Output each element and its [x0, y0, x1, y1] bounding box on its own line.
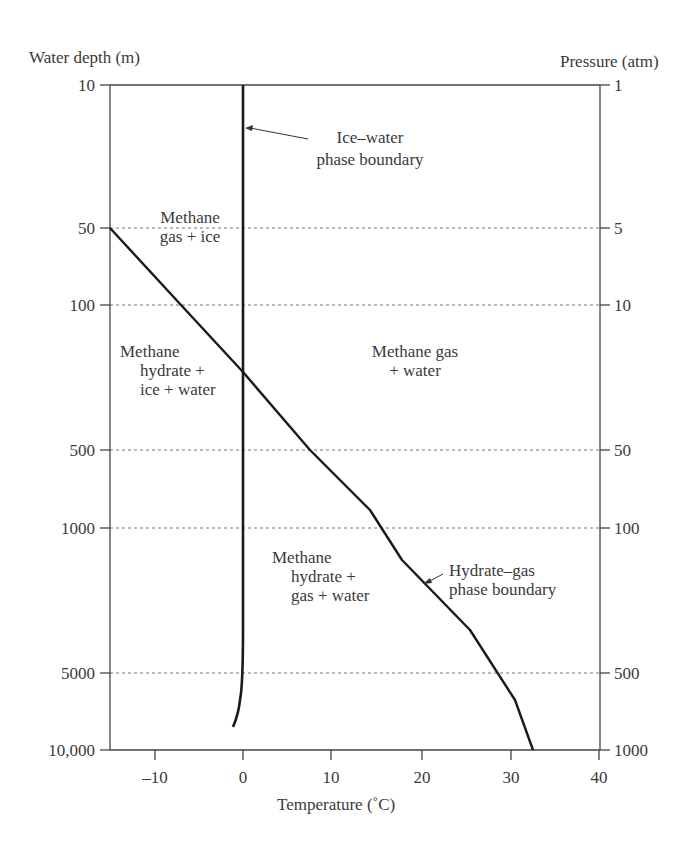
- gridlines: [110, 228, 600, 673]
- left-axis-ticks: [100, 85, 110, 750]
- left-tick-label: 500: [15, 441, 95, 460]
- right-tick-label: 50: [614, 441, 631, 460]
- right-tick-label: 10: [614, 296, 631, 315]
- hydrate-gas-boundary-label: Hydrate–gas phase boundary: [449, 561, 556, 599]
- hydrate-gas-annotation-arrow: [423, 574, 443, 584]
- right-tick-label: 5: [614, 219, 623, 238]
- ice-water-boundary-line: [233, 85, 243, 727]
- region-methane-gas-ice: Methane gas + ice: [145, 208, 235, 246]
- left-tick-label: 10,000: [15, 741, 95, 760]
- bottom-tick-label: –10: [125, 768, 185, 787]
- bottom-tick-label: 20: [392, 768, 452, 787]
- axes-frame: [110, 85, 600, 750]
- region-methane-hydrate-ice-water: Methane hydrate + ice + water: [120, 342, 216, 399]
- left-tick-label: 100: [15, 296, 95, 315]
- region-methane-gas-water: Methane gas + water: [355, 342, 475, 380]
- right-tick-label: 500: [614, 664, 640, 683]
- bottom-tick-label: 40: [569, 768, 629, 787]
- bottom-tick-label: 10: [301, 768, 361, 787]
- bottom-tick-label: 30: [481, 768, 541, 787]
- ice-water-boundary-label: Ice–water phase boundary: [290, 128, 450, 169]
- bottom-tick-label: 0: [213, 768, 273, 787]
- hydrate-gas-boundary-line: [110, 228, 533, 750]
- right-axis-title: Pressure (atm): [560, 52, 659, 71]
- right-tick-label: 1: [614, 76, 623, 95]
- left-axis-title: Water depth (m): [29, 48, 140, 67]
- left-tick-label: 10: [15, 76, 95, 95]
- region-methane-hydrate-gas-water: Methane hydrate + gas + water: [272, 548, 370, 605]
- bottom-axis-ticks: [155, 750, 599, 760]
- left-tick-label: 1000: [15, 519, 95, 538]
- left-tick-label: 50: [15, 219, 95, 238]
- right-tick-label: 100: [614, 519, 640, 538]
- right-axis-ticks: [600, 85, 610, 750]
- left-tick-label: 5000: [15, 664, 95, 683]
- bottom-axis-title: Temperature (˚C): [277, 795, 395, 814]
- right-tick-label: 1000: [614, 741, 648, 760]
